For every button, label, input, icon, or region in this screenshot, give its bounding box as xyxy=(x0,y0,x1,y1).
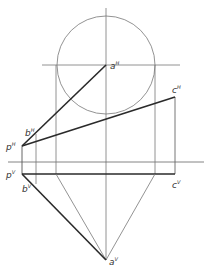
line-pV-aV xyxy=(22,174,106,260)
label-aH: aH xyxy=(110,60,120,71)
label-cV: cV xyxy=(172,179,181,190)
label-bV: bV xyxy=(22,183,32,194)
line-pH-cH xyxy=(22,97,175,146)
label-cH: cH xyxy=(172,84,181,95)
label-pV: pV xyxy=(5,169,16,180)
projection-drawing: aH cH bH pH pV bV cV aV xyxy=(0,0,204,269)
line-aH-pH xyxy=(22,65,106,146)
label-bH: bH xyxy=(25,127,35,138)
label-pH: pH xyxy=(5,141,16,152)
label-aV: aV xyxy=(109,256,119,267)
cone-right-generator xyxy=(106,174,155,260)
